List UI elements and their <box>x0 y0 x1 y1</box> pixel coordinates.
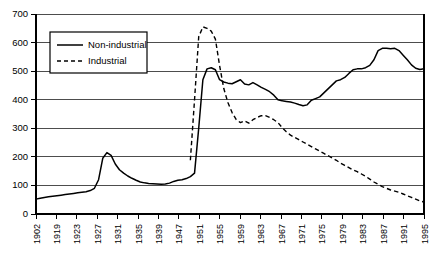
x-tick-label-1931: 1931 <box>113 224 123 244</box>
y-axis-ticks-group: 0100200300400500600700 <box>12 8 36 219</box>
y-tick-label-100: 100 <box>12 179 28 190</box>
chart-legend: Non-industrialIndustrial <box>50 32 147 73</box>
x-tick-label-1991: 1991 <box>399 224 409 244</box>
x-tick-label-1923: 1923 <box>72 224 82 244</box>
y-tick-label-500: 500 <box>12 65 28 76</box>
x-tick-label-1983: 1983 <box>358 224 368 244</box>
y-tick-label-0: 0 <box>23 208 28 219</box>
y-tick-label-300: 300 <box>12 122 28 133</box>
x-tick-label-1971: 1971 <box>297 224 307 244</box>
x-tick-label-1951: 1951 <box>195 224 205 244</box>
x-tick-label-1955: 1955 <box>215 224 225 244</box>
y-tick-label-200: 200 <box>12 151 28 162</box>
x-tick-label-1939: 1939 <box>154 224 164 244</box>
x-tick-label-1987: 1987 <box>379 224 389 244</box>
y-tick-label-600: 600 <box>12 37 28 48</box>
legend-label-industrial: Industrial <box>88 55 127 66</box>
x-tick-label-1979: 1979 <box>338 224 348 244</box>
x-tick-label-1995: 1995 <box>420 224 430 244</box>
chart-container: 0100200300400500600700 19021919192319271… <box>0 0 433 261</box>
x-tick-label-1967: 1967 <box>277 224 287 244</box>
y-tick-label-700: 700 <box>12 8 28 19</box>
x-tick-label-1947: 1947 <box>174 224 184 244</box>
x-tick-label-1919: 1919 <box>52 224 62 244</box>
x-tick-label-1927: 1927 <box>93 224 103 244</box>
line-chart: 0100200300400500600700 19021919192319271… <box>0 0 433 261</box>
legend-label-non-industrial: Non-industrial <box>88 39 147 50</box>
x-tick-label-1975: 1975 <box>317 224 327 244</box>
x-axis-ticks-group: 1902191919231927193119351939194719511955… <box>32 214 430 244</box>
x-tick-label-1902: 1902 <box>32 224 42 244</box>
series-line-industrial <box>190 27 424 202</box>
x-tick-label-1959: 1959 <box>236 224 246 244</box>
x-tick-label-1963: 1963 <box>256 224 266 244</box>
x-tick-label-1935: 1935 <box>134 224 144 244</box>
y-tick-label-400: 400 <box>12 94 28 105</box>
